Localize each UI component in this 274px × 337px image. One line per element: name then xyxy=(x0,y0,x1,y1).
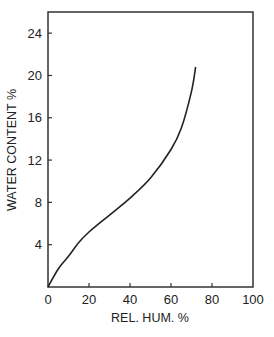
x-tick-label: 80 xyxy=(205,292,219,307)
plot-frame xyxy=(48,12,253,287)
y-tick-label: 4 xyxy=(35,237,42,252)
x-tick-label: 40 xyxy=(123,292,137,307)
y-tick-label: 16 xyxy=(28,110,42,125)
x-axis-title: REL. HUM. % xyxy=(111,311,189,325)
x-tick-label: 60 xyxy=(164,292,178,307)
x-tick-label: 100 xyxy=(242,292,264,307)
x-tick-label: 20 xyxy=(82,292,96,307)
chart: 020406080100 4812162024 REL. HUM. % WATE… xyxy=(0,0,274,337)
y-tick-label: 12 xyxy=(28,153,42,168)
y-axis-title: WATER CONTENT % xyxy=(5,89,19,211)
y-tick-label: 8 xyxy=(35,195,42,210)
data-line xyxy=(48,67,196,287)
y-tick-label: 24 xyxy=(28,26,42,41)
x-tick-label: 0 xyxy=(44,292,51,307)
y-tick-label: 20 xyxy=(28,68,42,83)
